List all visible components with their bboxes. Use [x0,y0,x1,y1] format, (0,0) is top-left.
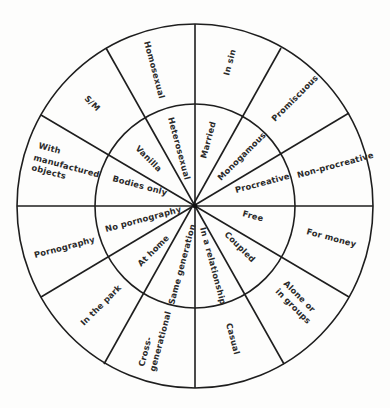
label-heterosexual: Heterosexual [166,116,192,181]
label-promiscuous: Promiscuous [269,73,320,124]
label-married: Married [198,120,217,159]
label-same-generation: Same generation [166,223,197,306]
label-procreative: Procreative [234,171,291,195]
label-bodies-only: Bodies only [111,173,168,197]
label-free: Free [241,208,264,223]
label-in-the-park: In the park [78,282,123,327]
label-homosexual: Homosexual [142,40,167,100]
label-pornography: Pornography [33,234,96,260]
label-vanilla: Vanilla [134,143,164,173]
label-non-procreative: Non-procreative [296,150,375,180]
label-coupled: Coupled [223,229,258,264]
wheel-svg: Procreative Non-procreative Monogamous P… [0,0,390,408]
label-for-money: For money [305,226,357,249]
label-sm: S/M [83,93,103,113]
sex-hierarchy-wheel-diagram: Procreative Non-procreative Monogamous P… [0,0,390,408]
label-in-sin: In sin [221,48,238,76]
label-monogamous: Monogamous [215,130,268,183]
label-casual: Casual [224,322,242,356]
center-dot [193,204,198,209]
